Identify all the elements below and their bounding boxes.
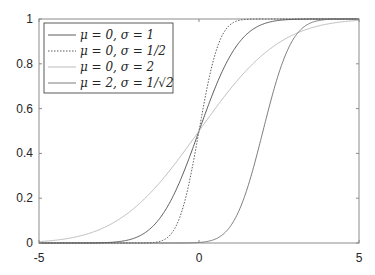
legend-label: μ = 2, σ = 1/√2 [80, 76, 174, 90]
legend: μ = 0, σ = 1 μ = 0, σ = 1/2 μ = 0, σ = 2… [44, 23, 174, 93]
cdf-chart: 0 0.2 0.4 0.6 0.8 1 -5 0 5 μ = 0, σ = 1 … [0, 0, 375, 275]
y-tick-label: 1 [26, 12, 33, 26]
legend-label: μ = 0, σ = 1/2 [80, 44, 166, 58]
y-tick-label: 0 [26, 236, 33, 250]
y-tick-label: 0.8 [16, 57, 33, 71]
x-tick-label: 5 [356, 251, 363, 265]
legend-label: μ = 0, σ = 1 [80, 28, 154, 42]
x-tick-label: -5 [34, 251, 45, 265]
y-tick-label: 0.4 [16, 146, 33, 160]
x-tick-label: 0 [196, 251, 203, 265]
y-tick-label: 0.2 [16, 191, 33, 205]
y-tick-label: 0.6 [16, 102, 33, 116]
legend-label: μ = 0, σ = 2 [80, 60, 154, 74]
